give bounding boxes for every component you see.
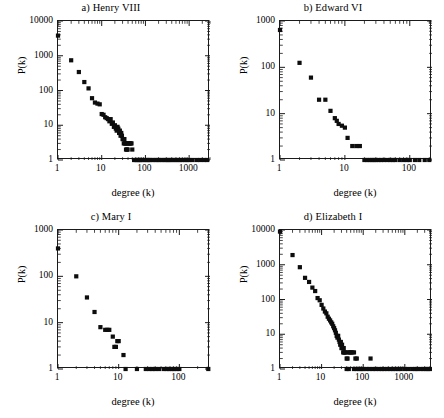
data-point [177,367,181,371]
data-point [56,246,60,250]
y-tick-label: 10000 [0,15,53,25]
y-tick-label: 1000 [0,224,53,234]
panel-title: b) Edward VI [222,2,444,13]
data-point [117,339,121,343]
data-point [74,274,78,278]
x-axis-label: degree (k) [57,396,209,407]
data-point [350,144,354,148]
data-point [303,276,307,280]
data-point [278,28,282,32]
data-point [399,367,403,371]
data-point [428,367,432,371]
x-tick-label: 10 [96,163,106,173]
data-point [313,289,317,293]
y-tick-label: 1000 [0,50,53,60]
panel-1: a) Henry VIIIP(k)degree (k)1101001000100… [0,0,222,209]
x-tick-label: 100 [171,372,185,382]
data-point [98,325,102,329]
data-point [191,158,195,162]
y-tick-label: 100 [0,85,53,95]
data-point [92,310,96,314]
data-point [111,335,115,339]
y-tick-label: 10000 [222,224,275,234]
data-point [125,147,129,151]
data-point [135,367,139,371]
plot-area [57,229,209,368]
y-tick-label: 1 [222,154,275,164]
y-tick-label: 1000 [222,15,275,25]
y-tick-label: 10 [0,119,53,129]
x-tick-label: 1 [277,372,282,382]
plot-area [279,229,431,368]
data-point [69,58,73,62]
panel-title: c) Mary I [0,211,222,222]
data-point [343,126,347,130]
x-tick-label: 1000 [394,372,413,382]
data-point [318,298,322,302]
data-point [98,102,102,106]
x-tick-label: 10 [316,372,326,382]
data-point [107,328,111,332]
plot-svg [280,230,432,369]
y-tick-label: 1 [0,363,53,373]
y-tick-label: 100 [222,294,275,304]
data-point [123,367,127,371]
y-tick-label: 10 [222,328,275,338]
data-point [323,98,327,102]
data-point [368,356,372,360]
x-tick-label: 100 [402,163,416,173]
data-point [129,141,133,145]
data-point [398,158,402,162]
x-axis-label: degree (k) [57,187,209,198]
data-point [393,158,397,162]
data-point [198,158,202,162]
x-axis-label: degree (k) [279,396,431,407]
y-tick-label: 100 [0,270,53,280]
x-tick-label: 100 [137,163,151,173]
data-point [114,345,118,349]
data-point [413,158,417,162]
data-point [355,356,359,360]
data-point [56,34,60,38]
data-point [85,295,89,299]
data-point [297,61,301,65]
y-tick-label: 100 [222,61,275,71]
panel-3: c) Mary IP(k)degree (k)1101001000110100 [0,209,222,418]
x-tick-label: 10 [113,372,123,382]
data-point [427,158,431,162]
data-point [345,136,349,140]
panel-4: d) Elizabeth IP(k)degree (k)110100100010… [222,209,444,418]
data-point [153,367,157,371]
figure-four-panel-degree-distributions: a) Henry VIIIP(k)degree (k)1101001000100… [0,0,444,418]
data-point [309,76,313,80]
x-tick-label: 1 [55,372,60,382]
data-point [278,229,282,233]
data-point [358,144,362,148]
plot-svg [280,21,432,160]
data-point [347,367,351,371]
y-tick-label: 10 [0,317,53,327]
x-axis-label: degree (k) [279,187,431,198]
x-tick-label: 1 [277,163,282,173]
data-point [206,367,210,371]
y-tick-label: 1 [222,363,275,373]
data-point [130,147,134,151]
data-point [86,86,90,90]
panel-title: a) Henry VIII [0,2,222,13]
data-point [298,265,302,269]
data-point [205,158,209,162]
data-point [408,158,412,162]
y-tick-label: 10 [222,108,275,118]
data-point [406,367,410,371]
x-tick-label: 1 [55,163,60,173]
data-point [290,253,294,257]
data-point [352,350,356,354]
plot-area [279,20,431,159]
y-tick-label: 1 [0,154,53,164]
data-point [336,334,340,338]
data-point [90,96,94,100]
plot-svg [58,21,210,160]
panel-title: d) Elizabeth I [222,211,444,222]
x-tick-label: 10 [339,163,349,173]
data-point [157,367,161,371]
